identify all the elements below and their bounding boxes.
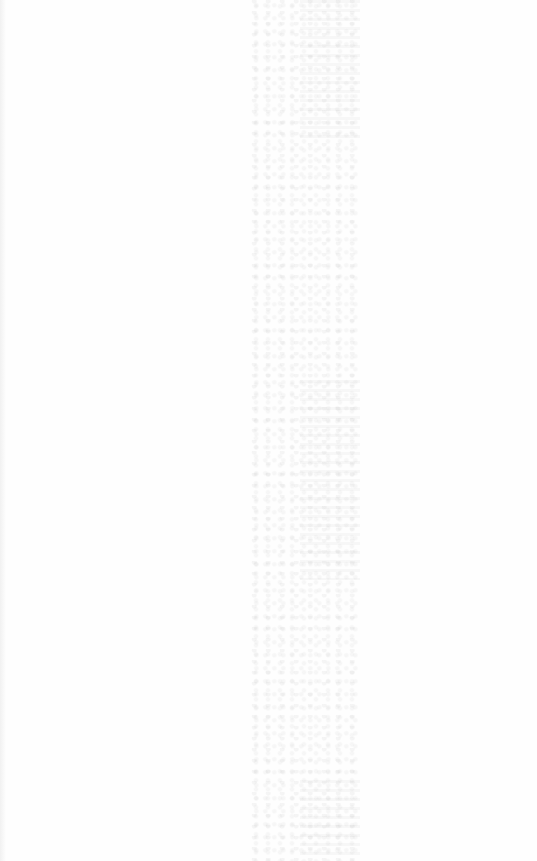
page-edge-shadow — [0, 0, 6, 861]
blank-page — [0, 0, 537, 861]
bleed-through-noise-bottom — [300, 780, 360, 861]
bleed-through-noise-middle — [300, 380, 360, 580]
bleed-through-noise-top — [300, 0, 360, 140]
